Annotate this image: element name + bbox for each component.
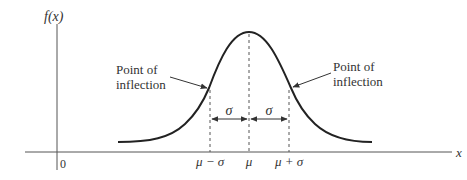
tick-mu-plus-sigma: μ + σ — [274, 154, 304, 169]
inflection-label-left-line1: Point of — [116, 62, 158, 77]
normal-distribution-diagram: f(x) x 0 μ − σ μ μ + σ σ σ Point of infl… — [0, 0, 467, 180]
inflection-label-right-line2: inflection — [333, 74, 383, 89]
y-axis-label: f(x) — [44, 9, 64, 25]
inflection-label-right-line1: Point of — [333, 59, 375, 74]
sigma-label-right: σ — [266, 103, 274, 118]
tick-mu: μ — [245, 154, 253, 169]
inflection-pointer-right — [293, 73, 331, 87]
x-axis-label: x — [455, 145, 462, 160]
tick-mu-minus-sigma: μ − σ — [195, 154, 225, 169]
inflection-pointer-left — [170, 77, 207, 88]
origin-label: 0 — [60, 157, 66, 171]
inflection-label-left-line2: inflection — [116, 77, 166, 92]
sigma-label-left: σ — [226, 103, 234, 118]
